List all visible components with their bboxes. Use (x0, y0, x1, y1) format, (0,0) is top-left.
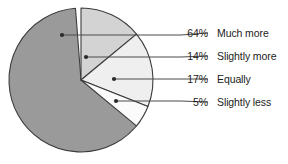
callout-dot-slightly-less (114, 99, 118, 103)
pie-slices (9, 8, 153, 152)
callout-dot-slightly-more (84, 55, 88, 59)
callout-dot-much-more (60, 33, 64, 37)
pie-chart-graphic (0, 0, 288, 164)
callout-dot-equally (112, 77, 116, 81)
pie-chart: 64% Much more 14% Slightly more 17% Equa… (0, 0, 288, 164)
